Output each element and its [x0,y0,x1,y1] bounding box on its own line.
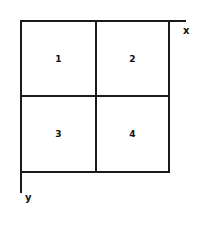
quadrant-2-label: 2 [97,22,168,95]
quadrant-1-label: 1 [22,22,95,95]
y-axis-label: y [25,193,32,203]
quadrant-3-label: 3 [22,97,95,171]
quadrant-4-label: 4 [97,97,168,171]
x-axis-label: x [183,26,189,36]
